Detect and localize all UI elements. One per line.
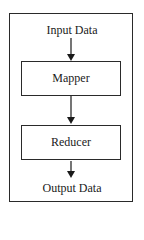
output-data-label: Output Data	[0, 181, 144, 196]
mapper-label: Mapper	[52, 71, 89, 86]
reducer-label: Reducer	[51, 135, 91, 150]
mapper-box: Mapper	[21, 61, 121, 96]
reducer-box: Reducer	[21, 125, 121, 160]
